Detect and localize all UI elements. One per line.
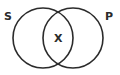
venn-diagram: S P X (0, 0, 120, 75)
set-s-label: S (4, 10, 12, 23)
intersection-label: X (54, 32, 63, 45)
set-p-label: P (105, 10, 113, 23)
